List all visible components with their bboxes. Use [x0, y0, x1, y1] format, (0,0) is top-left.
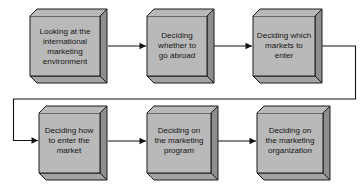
- process-box-label-line: Deciding on: [269, 126, 312, 135]
- process-box-node-3[interactable]: Deciding which markets to enter: [253, 9, 322, 83]
- box-side-face: [315, 9, 322, 83]
- connector-node5-to-node6: [218, 138, 256, 144]
- arrow-head-icon: [246, 43, 253, 49]
- box-side-face: [211, 106, 218, 180]
- process-box-label-line: marketing: [47, 47, 83, 56]
- box-bottom-face: [253, 76, 322, 83]
- box-top-face: [30, 9, 107, 16]
- process-box-node-6[interactable]: Deciding on the marketing organization: [257, 106, 330, 180]
- process-box-label-line: go abroad: [159, 51, 195, 60]
- box-side-face: [100, 106, 107, 180]
- box-top-face: [253, 9, 322, 16]
- process-box-label-line: Deciding how: [45, 126, 94, 135]
- process-box-label-line: the marketing: [154, 136, 203, 145]
- process-box-label-line: environment: [43, 57, 88, 66]
- process-box-label-line: international: [43, 37, 87, 46]
- diagram-canvas: Looking at the international marketing e…: [0, 0, 363, 193]
- process-box-label-line: to enter the: [49, 136, 90, 145]
- connector-node2-to-node3: [214, 43, 252, 49]
- box-side-face: [207, 9, 214, 83]
- process-box-node-5[interactable]: Deciding on the marketing program: [147, 106, 218, 180]
- arrow-head-icon: [250, 138, 257, 144]
- box-side-face: [323, 106, 330, 180]
- box-bottom-face: [30, 76, 107, 83]
- process-box-label-line: market: [57, 146, 82, 155]
- process-box-label-line: Looking at the: [40, 27, 91, 36]
- box-top-face: [147, 106, 218, 113]
- box-bottom-face: [257, 173, 330, 180]
- process-box-label-line: Deciding on: [158, 126, 201, 135]
- box-bottom-face: [147, 173, 218, 180]
- process-box-node-2[interactable]: Deciding whether to go abroad: [147, 9, 214, 83]
- box-bottom-face: [39, 173, 107, 180]
- process-box-node-1[interactable]: Looking at the international marketing e…: [30, 9, 107, 83]
- process-box-label-line: enter: [275, 51, 294, 60]
- connector-node4-to-node5: [108, 138, 146, 144]
- box-top-face: [39, 106, 107, 113]
- process-box-node-4[interactable]: Deciding how to enter the market: [39, 106, 107, 180]
- box-top-face: [147, 9, 214, 16]
- process-box-label-line: whether to: [157, 41, 196, 50]
- process-box-label-line: Deciding which: [257, 31, 311, 40]
- process-box-label-line: Deciding: [161, 31, 193, 40]
- box-top-face: [257, 106, 330, 113]
- arrow-head-icon: [32, 137, 39, 143]
- process-box-label-line: program: [164, 146, 194, 155]
- process-box-label-line: markets to: [265, 41, 303, 50]
- process-flow-diagram: Looking at the international marketing e…: [0, 0, 363, 193]
- arrow-head-icon: [140, 43, 147, 49]
- connector-node1-to-node2: [108, 43, 146, 49]
- process-box-label-line: the marketing: [265, 136, 314, 145]
- box-bottom-face: [147, 76, 214, 83]
- process-box-label-line: organization: [268, 146, 312, 155]
- box-side-face: [100, 9, 107, 83]
- arrow-head-icon: [140, 138, 147, 144]
